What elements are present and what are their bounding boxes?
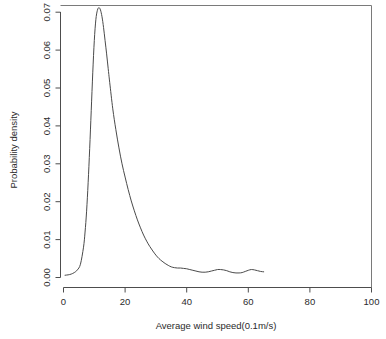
x-tick-label: 100: [364, 296, 380, 307]
x-tick-label: 0: [61, 296, 66, 307]
x-tick-label: 20: [120, 296, 131, 307]
y-axis-tick-labels: 0.00 0.01 0.02 0.03 0.04 0.05 0.06 0.07: [41, 3, 52, 287]
y-tick-label: 0.04: [41, 117, 52, 135]
x-axis-title: Average wind speed(0.1m/s): [156, 320, 277, 331]
x-axis-ticks: [64, 288, 372, 293]
x-tick-label: 80: [305, 296, 316, 307]
y-tick-label: 0.03: [41, 155, 52, 174]
y-axis-ticks: [56, 12, 61, 277]
x-tick-label: 40: [181, 296, 192, 307]
x-tick-label: 60: [243, 296, 254, 307]
density-chart: 0.00 0.01 0.02 0.03 0.04 0.05 0.06 0.07 …: [0, 0, 386, 339]
x-axis: 0 20 40 60 80 100 Average wind speed(0.1…: [61, 288, 380, 332]
y-axis-title: Probability density: [8, 111, 19, 188]
y-tick-label: 0.01: [41, 230, 52, 249]
y-tick-label: 0.02: [41, 192, 52, 211]
x-axis-tick-labels: 0 20 40 60 80 100: [61, 296, 380, 307]
y-tick-label: 0.06: [41, 41, 52, 60]
plot-frame: [61, 6, 372, 288]
y-axis: 0.00 0.01 0.02 0.03 0.04 0.05 0.06 0.07 …: [8, 3, 61, 287]
chart-canvas: 0.00 0.01 0.02 0.03 0.04 0.05 0.06 0.07 …: [0, 0, 386, 339]
density-curve-line: [65, 8, 264, 276]
y-tick-label: 0.07: [41, 3, 52, 22]
y-tick-label: 0.00: [41, 268, 52, 287]
y-tick-label: 0.05: [41, 79, 52, 98]
